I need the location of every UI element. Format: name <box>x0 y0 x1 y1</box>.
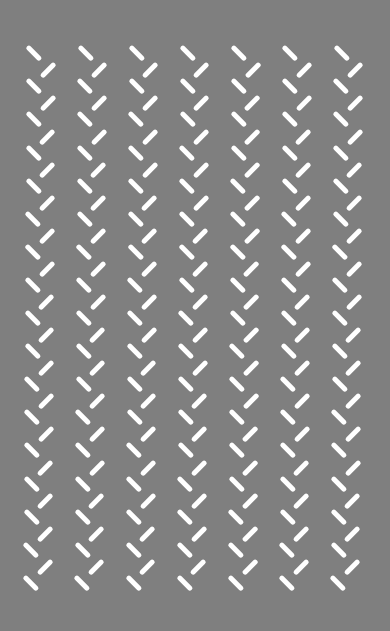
dash-column-7 <box>0 0 390 631</box>
backslash-dash-icon <box>23 508 40 525</box>
backslash-dash-icon <box>330 574 347 591</box>
slash-dash-icon <box>344 558 361 575</box>
slash-dash-icon <box>39 128 56 145</box>
dash-column-3 <box>0 0 390 631</box>
slash-dash-icon <box>193 128 210 145</box>
slash-dash-icon <box>243 194 260 211</box>
slash-dash-icon <box>294 360 311 377</box>
slash-dash-icon <box>38 261 55 278</box>
slash-dash-icon <box>294 294 311 311</box>
backslash-dash-icon <box>77 144 94 161</box>
backslash-dash-icon <box>177 442 194 459</box>
backslash-dash-icon <box>228 541 245 558</box>
slash-dash-icon <box>140 360 157 377</box>
backslash-dash-icon <box>126 475 143 492</box>
slash-dash-icon <box>293 459 310 476</box>
slash-dash-icon <box>140 426 157 443</box>
backslash-dash-icon <box>280 376 297 393</box>
backslash-dash-icon <box>177 475 194 492</box>
backslash-dash-icon <box>74 541 91 558</box>
backslash-dash-icon <box>26 111 43 128</box>
backslash-dash-icon <box>127 310 144 327</box>
slash-dash-icon <box>38 360 55 377</box>
backslash-dash-icon <box>333 45 350 62</box>
backslash-dash-icon <box>332 277 349 294</box>
slash-dash-icon <box>39 194 56 211</box>
dash-column-4 <box>0 0 390 631</box>
backslash-dash-icon <box>126 508 143 525</box>
backslash-dash-icon <box>179 111 196 128</box>
backslash-dash-icon <box>230 111 247 128</box>
backslash-dash-icon <box>332 210 349 227</box>
slash-dash-icon <box>39 95 56 112</box>
backslash-dash-icon <box>280 310 297 327</box>
backslash-dash-icon <box>231 45 248 62</box>
slash-dash-icon <box>191 327 208 344</box>
slash-dash-icon <box>88 426 105 443</box>
backslash-dash-icon <box>25 210 42 227</box>
backslash-dash-icon <box>331 442 348 459</box>
backslash-dash-icon <box>127 343 144 360</box>
slash-dash-icon <box>345 360 362 377</box>
slash-dash-icon <box>36 558 53 575</box>
slash-dash-icon <box>89 261 106 278</box>
slash-dash-icon <box>89 327 106 344</box>
slash-dash-icon <box>244 95 261 112</box>
backslash-dash-icon <box>281 277 298 294</box>
slash-dash-icon <box>140 393 157 410</box>
backslash-dash-icon <box>179 177 196 194</box>
backslash-dash-icon <box>281 144 298 161</box>
slash-dash-icon <box>346 194 363 211</box>
slash-dash-icon <box>192 227 209 244</box>
backslash-dash-icon <box>75 442 92 459</box>
backslash-dash-icon <box>280 442 297 459</box>
slash-dash-icon <box>244 128 261 145</box>
backslash-dash-icon <box>229 277 246 294</box>
backslash-dash-icon <box>128 78 145 95</box>
backslash-dash-icon <box>125 574 142 591</box>
slash-dash-icon <box>242 459 259 476</box>
slash-dash-icon <box>88 492 105 509</box>
slash-dash-icon <box>37 525 54 542</box>
backslash-dash-icon <box>281 243 298 260</box>
slash-dash-icon <box>293 525 310 542</box>
backslash-dash-icon <box>280 409 297 426</box>
backslash-dash-icon <box>24 343 41 360</box>
slash-dash-icon <box>192 294 209 311</box>
backslash-dash-icon <box>23 574 40 591</box>
backslash-dash-icon <box>282 45 299 62</box>
slash-dash-icon <box>244 161 261 178</box>
slash-dash-icon <box>242 426 259 443</box>
slash-dash-icon <box>90 128 107 145</box>
slash-dash-icon <box>346 161 363 178</box>
backslash-dash-icon <box>76 210 93 227</box>
slash-dash-icon <box>241 558 258 575</box>
backslash-dash-icon <box>77 111 94 128</box>
backslash-dash-icon <box>24 310 41 327</box>
backslash-dash-icon <box>76 310 93 327</box>
slash-dash-icon <box>292 558 309 575</box>
slash-dash-icon <box>347 62 364 79</box>
backslash-dash-icon <box>229 310 246 327</box>
slash-dash-icon <box>243 327 260 344</box>
slash-dash-icon <box>89 360 106 377</box>
slash-dash-icon <box>344 525 361 542</box>
slash-dash-icon <box>142 95 159 112</box>
slash-dash-icon <box>295 62 312 79</box>
slash-dash-icon <box>295 161 312 178</box>
slash-dash-icon <box>344 459 361 476</box>
slash-dash-icon <box>242 492 259 509</box>
slash-dash-icon <box>294 261 311 278</box>
slash-dash-icon <box>345 393 362 410</box>
slash-dash-icon <box>243 294 260 311</box>
backslash-dash-icon <box>279 508 296 525</box>
backslash-dash-icon <box>332 243 349 260</box>
backslash-dash-icon <box>126 442 143 459</box>
backslash-dash-icon <box>229 376 246 393</box>
backslash-dash-icon <box>279 475 296 492</box>
backslash-dash-icon <box>25 277 42 294</box>
slash-dash-icon <box>91 62 108 79</box>
slash-dash-icon <box>244 62 261 79</box>
backslash-dash-icon <box>176 574 193 591</box>
backslash-dash-icon <box>281 177 298 194</box>
